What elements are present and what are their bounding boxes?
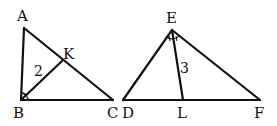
- label-l: L: [177, 104, 187, 122]
- label-b: B: [13, 104, 24, 122]
- length-el: 3: [180, 60, 189, 76]
- length-bk: 2: [34, 63, 43, 79]
- label-k: K: [63, 45, 75, 63]
- segment-ab: [21, 28, 24, 100]
- triangle-def: [123, 30, 260, 100]
- geometry-figure: A B C K 2 D E L F 3: [0, 0, 277, 126]
- label-e: E: [166, 9, 177, 27]
- label-f: F: [254, 104, 264, 122]
- label-d: D: [122, 104, 134, 122]
- angle-tick-e-2: [176, 36, 177, 41]
- label-c: C: [107, 104, 118, 122]
- segment-de: [123, 30, 172, 100]
- angle-tick-e-1: [169, 36, 170, 41]
- label-a: A: [16, 7, 28, 25]
